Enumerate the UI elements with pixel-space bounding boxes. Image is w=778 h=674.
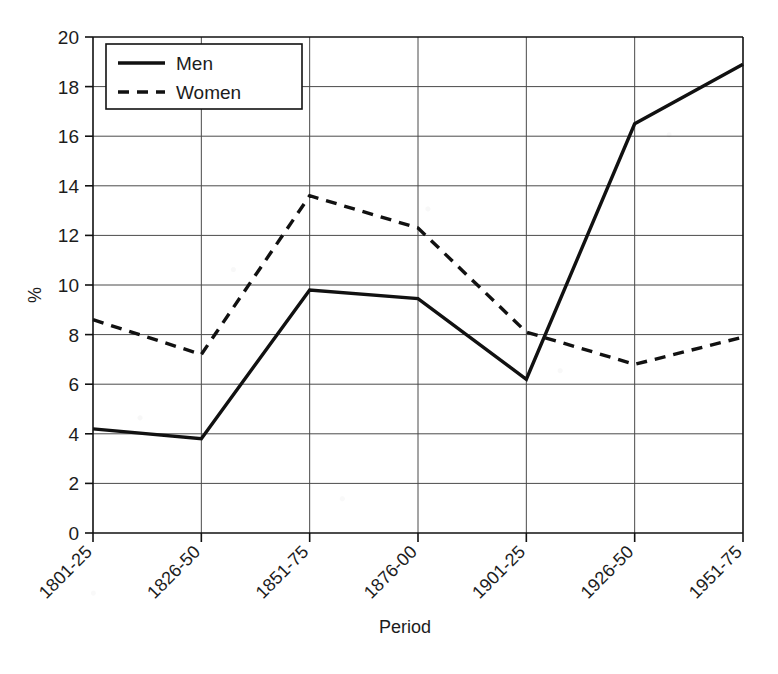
y-tick-label: 2 bbox=[68, 473, 79, 494]
y-tick-label: 16 bbox=[58, 126, 79, 147]
x-tick-label: 1951-75 bbox=[685, 542, 746, 603]
chart-legend: Men Women bbox=[106, 44, 302, 109]
y-tick-label: 8 bbox=[68, 325, 79, 346]
y-tick-label: 14 bbox=[58, 176, 80, 197]
y-tick-label: 12 bbox=[58, 225, 79, 246]
line-chart: 02468101214161820 1801-251826-501851-751… bbox=[0, 0, 778, 674]
x-tick-label: 1851-75 bbox=[252, 542, 313, 603]
y-axis-title: % bbox=[25, 287, 45, 303]
x-tick-label: 1926-50 bbox=[577, 542, 638, 603]
y-tick-label: 0 bbox=[68, 523, 79, 544]
y-tick-label: 4 bbox=[68, 424, 79, 445]
x-axis-title: Period bbox=[379, 617, 431, 637]
x-tick-label: 1876-00 bbox=[360, 542, 421, 603]
chart-figure: 02468101214161820 1801-251826-501851-751… bbox=[0, 0, 778, 674]
y-tick-label: 18 bbox=[58, 77, 79, 98]
x-tick-label: 1826-50 bbox=[143, 542, 204, 603]
y-tick-label: 6 bbox=[68, 374, 79, 395]
y-tick-label: 10 bbox=[58, 275, 79, 296]
y-axis-ticks: 02468101214161820 bbox=[58, 27, 93, 544]
x-axis-ticks: 1801-251826-501851-751876-001901-251926-… bbox=[35, 533, 746, 603]
x-tick-label: 1801-25 bbox=[35, 542, 96, 603]
legend-label-women: Women bbox=[176, 82, 241, 103]
y-tick-label: 20 bbox=[58, 27, 79, 48]
x-tick-label: 1901-25 bbox=[468, 542, 529, 603]
legend-label-men: Men bbox=[176, 53, 213, 74]
